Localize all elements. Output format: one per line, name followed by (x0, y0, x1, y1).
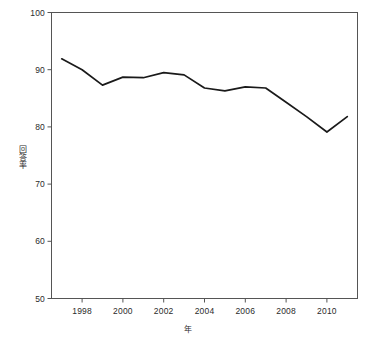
y-tick-label: 100 (14, 8, 45, 18)
x-tick-label: 2004 (195, 306, 215, 316)
data-series-line (62, 59, 348, 132)
x-tick-label: 2006 (235, 306, 255, 316)
x-tick-label: 2008 (276, 306, 296, 316)
y-tick-marks (48, 13, 52, 299)
plot-frame (52, 13, 358, 299)
y-tick-label: 50 (14, 294, 45, 304)
x-tick-label: 1998 (72, 306, 92, 316)
plot-frame-rect (52, 13, 358, 299)
y-tick-label: 80 (14, 122, 45, 132)
y-tick-label: 70 (14, 179, 45, 189)
x-axis-title: 年 (0, 323, 375, 334)
line-chart-figure: 5060708090100 19982000200220042006200820… (0, 0, 375, 347)
y-tick-label: 60 (14, 236, 45, 246)
y-tick-label: 90 (14, 65, 45, 75)
x-tick-label: 2000 (113, 306, 133, 316)
plot-area-svg (0, 0, 375, 347)
x-tick-label: 2010 (317, 306, 337, 316)
x-tick-label: 2002 (154, 306, 174, 316)
y-axis-title: 回答率 (12, 145, 26, 169)
x-tick-marks (82, 299, 327, 303)
